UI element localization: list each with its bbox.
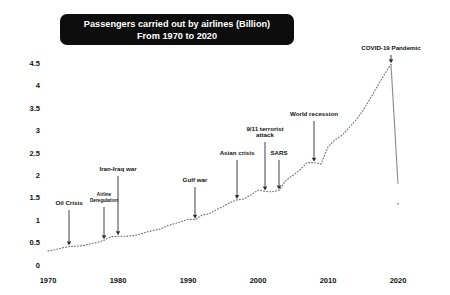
x-axis: 197019801990200020102020 (40, 276, 407, 285)
annotation-arrowhead-oil-crisis (67, 242, 71, 246)
x-tick-label: 2000 (250, 276, 267, 285)
y-tick-label: 1 (36, 216, 40, 225)
airline-passengers-line-chart: 00.511.522.533.544.5 1970198019902000201… (0, 0, 450, 295)
annotation-label-airline-deregulation: Airline (97, 192, 112, 197)
annotation-arrowhead-world-recession (312, 158, 316, 162)
x-tick-label: 2010 (320, 276, 337, 285)
annotation-label-sars: SARS (270, 149, 287, 156)
title-line-1: Passengers carried out by airlines (Bill… (84, 19, 270, 29)
annotation-arrowhead-asian-crisis (235, 195, 239, 199)
series-dotted-path (48, 64, 391, 251)
annotation-world-recession: World recession (290, 110, 338, 162)
y-axis: 00.511.522.533.544.5 (30, 59, 41, 270)
chart-container: 00.511.522.533.544.5 1970198019902000201… (0, 0, 450, 295)
y-tick-label: 0.5 (30, 238, 40, 247)
annotation-label-gulf-war: Gulf war (183, 176, 208, 183)
annotation-arrowhead-iran-iraq-war (116, 231, 120, 235)
annotation-airline-deregulation: AirlineDeregulation (90, 192, 118, 239)
annotation-sars: SARS (270, 149, 287, 189)
annotation-9-11-terrorist-attack: 9/11 terroristattack (246, 125, 283, 190)
annotation-gulf-war: Gulf war (183, 176, 208, 219)
series-endpoint-marker (397, 203, 399, 205)
y-tick-label: 3 (36, 126, 40, 135)
y-tick-label: 2.5 (30, 149, 40, 158)
y-tick-label: 1.5 (30, 193, 40, 202)
annotations-layer: Oil CrisisAirlineDeregulationIran-Iraq w… (55, 44, 421, 246)
annotation-label-asian-crisis: Asian crisis (220, 149, 255, 156)
annotation-arrowhead-airline-deregulation (102, 235, 106, 239)
chart-title: Passengers carried out by airlines (Bill… (60, 14, 294, 45)
annotation-label2-9-11-terrorist-attack: attack (256, 131, 274, 138)
annotation-label2-airline-deregulation: Deregulation (90, 198, 118, 203)
x-tick-label: 2020 (390, 276, 407, 285)
annotation-label-world-recession: World recession (290, 110, 338, 117)
annotation-arrowhead-9-11-terrorist-attack (263, 186, 267, 190)
covid-drop-path (391, 64, 398, 183)
annotation-label-oil-crisis: Oil Crisis (55, 199, 83, 206)
title-line-2: From 1970 to 2020 (137, 31, 217, 41)
y-tick-label: 0 (36, 261, 40, 270)
annotation-arrowhead-covid-19-pandemic (389, 59, 393, 63)
data-series (48, 64, 399, 251)
annotation-asian-crisis: Asian crisis (220, 149, 255, 199)
annotation-label-iran-iraq-war: Iran-Iraq war (99, 165, 137, 172)
x-tick-label: 1970 (40, 276, 57, 285)
y-tick-label: 3.5 (30, 104, 40, 113)
y-tick-label: 4 (36, 81, 41, 90)
y-tick-label: 2 (36, 171, 40, 180)
x-tick-label: 1990 (180, 276, 197, 285)
y-tick-label: 4.5 (30, 59, 40, 68)
annotation-covid-19-pandemic: COVID-19 Pandemic (361, 44, 421, 63)
x-tick-label: 1980 (110, 276, 127, 285)
annotation-oil-crisis: Oil Crisis (55, 199, 83, 246)
annotation-label-covid-19-pandemic: COVID-19 Pandemic (361, 44, 421, 51)
